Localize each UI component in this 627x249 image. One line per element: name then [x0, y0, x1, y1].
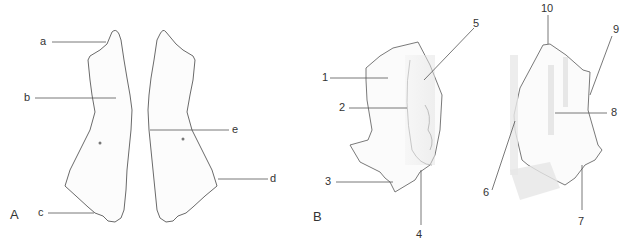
label-10: 10	[541, 3, 553, 14]
anatomical-figure: a b c d e A 1 2 3 4 5 6 7 8 9 10 B	[0, 0, 627, 249]
label-7: 7	[578, 216, 584, 227]
label-d: d	[270, 173, 276, 184]
panel-label-b: B	[313, 210, 322, 223]
panel-a-left-bone	[65, 30, 132, 222]
label-b: b	[24, 92, 30, 103]
label-2: 2	[339, 102, 345, 113]
label-c: c	[38, 207, 44, 218]
label-5: 5	[473, 18, 479, 29]
label-3: 3	[325, 176, 331, 187]
label-e: e	[232, 124, 238, 135]
label-9: 9	[613, 24, 619, 35]
panel-a-right-bone	[148, 30, 217, 222]
label-8: 8	[611, 107, 617, 118]
label-a: a	[40, 36, 46, 47]
panel-label-a: A	[10, 208, 19, 221]
label-4: 4	[416, 229, 422, 240]
panel-b-second-bone	[514, 44, 602, 185]
label-6: 6	[483, 187, 489, 198]
label-1: 1	[322, 72, 328, 83]
